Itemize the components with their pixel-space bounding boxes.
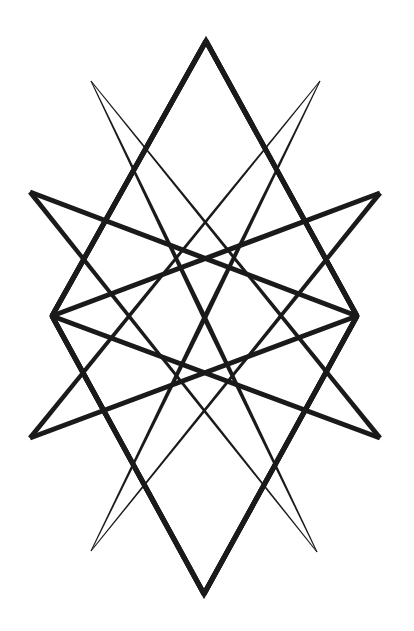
geometric-star-figure: [0, 0, 414, 631]
star-lines: [28, 41, 382, 594]
figure-canvas: [0, 0, 414, 631]
